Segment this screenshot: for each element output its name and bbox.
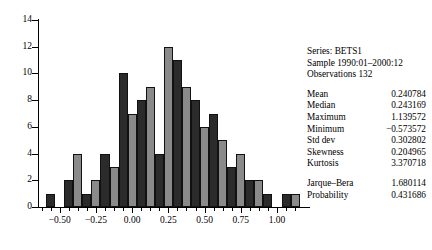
histogram-bar	[191, 100, 200, 207]
histogram-bar	[164, 47, 173, 207]
plot-area	[38, 20, 306, 207]
x-tick-minor	[223, 208, 224, 211]
descriptive-statistics: Mean0.240784Median0.243169Maximum1.13957…	[307, 89, 432, 170]
x-tick-minor	[105, 208, 106, 211]
stat-label: Median	[307, 100, 335, 112]
histogram-bar	[110, 167, 119, 207]
x-tick-major	[205, 208, 206, 213]
x-tick-minor	[141, 208, 142, 211]
statistic-row: Minimum−0.573572	[307, 124, 432, 136]
histogram-chart: 02468101214 −0.50−0.250.000.250.500.751.…	[0, 0, 300, 250]
stat-label: Jarque–Bera	[307, 178, 353, 190]
histogram-bar	[236, 154, 245, 207]
x-tick-minor	[123, 208, 124, 211]
stat-label: Minimum	[307, 124, 344, 136]
stat-label: Maximum	[307, 112, 346, 124]
histogram-bar	[263, 194, 272, 207]
x-tick-minor	[69, 208, 70, 211]
histogram-report: 02468101214 −0.50−0.250.000.250.500.751.…	[0, 0, 432, 250]
histogram-bar	[218, 140, 227, 207]
x-tick-minor	[150, 208, 151, 211]
normality-test-statistics: Jarque–Bera1.680114Probability0.431686	[307, 178, 432, 201]
x-tick-minor	[214, 208, 215, 211]
x-tick-minor	[186, 208, 187, 211]
histogram-bar	[119, 73, 128, 207]
histogram-bar	[137, 100, 146, 207]
stats-spacer-bottom	[307, 170, 432, 178]
x-tick-label-text: 0.75	[221, 215, 261, 225]
y-tick-label: 6	[0, 122, 32, 132]
y-tick-mark	[32, 207, 38, 208]
y-tick-label-text: 2	[6, 175, 32, 185]
x-tick-label-text: −0.50	[40, 215, 80, 225]
stat-label: Std dev	[307, 135, 335, 147]
stat-label: Skewness	[307, 147, 344, 159]
statistics-panel: Series: BETS1 Sample 1990:01–2000:12 Obs…	[307, 46, 432, 201]
stat-value: 1.139572	[364, 112, 426, 124]
y-tick-label: 8	[0, 95, 32, 105]
stat-value: −0.573572	[364, 124, 426, 136]
x-tick-label-text: 1.00	[257, 215, 297, 225]
stats-spacer-top	[307, 81, 432, 89]
x-tick-minor	[159, 208, 160, 211]
statistic-row: Kurtosis3.370718	[307, 158, 432, 170]
x-tick-major	[132, 208, 133, 213]
x-tick-minor	[268, 208, 269, 211]
y-tick-label: 4	[0, 149, 32, 159]
y-tick-label: 14	[0, 15, 32, 25]
x-tick-label-text: 0.25	[148, 215, 188, 225]
histogram-bar	[245, 180, 254, 207]
x-tick-minor	[196, 208, 197, 211]
histogram-bar	[73, 154, 82, 207]
histogram-bar	[100, 154, 109, 207]
y-tick-label-text: 14	[6, 15, 32, 25]
x-tick-label-text: −0.25	[76, 215, 116, 225]
test-statistic-row: Probability0.431686	[307, 190, 432, 202]
statistic-row: Std dev0.302802	[307, 135, 432, 147]
stat-value: 0.204965	[364, 147, 426, 159]
x-tick-label-text: 0.50	[185, 215, 225, 225]
x-tick-minor	[114, 208, 115, 211]
statistic-row: Maximum1.139572	[307, 112, 432, 124]
histogram-bar	[91, 180, 100, 207]
histogram-bar	[146, 87, 155, 207]
x-tick-label-text: 0.00	[112, 215, 152, 225]
stat-label: Probability	[307, 190, 348, 202]
x-tick-minor	[250, 208, 251, 211]
y-tick-label: 10	[0, 68, 32, 78]
histogram-bar	[254, 180, 263, 207]
histogram-bar	[182, 87, 191, 207]
stat-label: Kurtosis	[307, 158, 339, 170]
observations-count: Observations 132	[307, 69, 432, 81]
histogram-bar	[128, 114, 137, 208]
x-tick-minor	[286, 208, 287, 211]
stat-value: 3.370718	[364, 158, 426, 170]
statistic-row: Skewness0.204965	[307, 147, 432, 159]
y-tick-label-text: 8	[6, 95, 32, 105]
stat-value: 1.680114	[364, 178, 426, 190]
histogram-bar	[209, 114, 218, 208]
y-tick-label-text: 10	[6, 68, 32, 78]
y-tick-label-text: 12	[6, 42, 32, 52]
x-tick-major	[60, 208, 61, 213]
x-tick-minor	[42, 208, 43, 211]
histogram-bar	[64, 180, 73, 207]
stat-value: 0.302802	[364, 135, 426, 147]
y-tick-label: 12	[0, 42, 32, 52]
x-tick-major	[241, 208, 242, 213]
x-tick-minor	[232, 208, 233, 211]
histogram-bar	[173, 60, 182, 207]
stat-value: 0.240784	[364, 89, 426, 101]
stat-label: Mean	[307, 89, 328, 101]
histogram-bar	[46, 194, 55, 207]
x-tick-major	[277, 208, 278, 213]
y-tick-label-text: 4	[6, 149, 32, 159]
x-tick-minor	[259, 208, 260, 211]
x-tick-major	[168, 208, 169, 213]
series-name: Series: BETS1	[307, 46, 432, 58]
x-tick-minor	[87, 208, 88, 211]
y-tick-label-text: 6	[6, 122, 32, 132]
statistic-row: Median0.243169	[307, 100, 432, 112]
statistic-row: Mean0.240784	[307, 89, 432, 101]
y-tick-label: 2	[0, 175, 32, 185]
